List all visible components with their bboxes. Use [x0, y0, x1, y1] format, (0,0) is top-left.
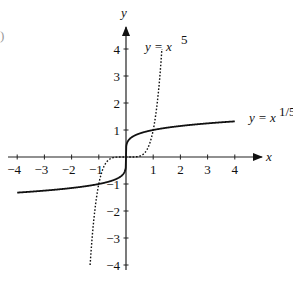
x-tick-label: 3 — [204, 162, 211, 177]
function-graph: x y −4−3−2−11234 4321−1−2−3−4 y = x 5 y … — [0, 0, 293, 286]
y-tick-label: −2 — [106, 204, 120, 219]
x-tick-label: 2 — [177, 162, 184, 177]
x-tick-label: −4 — [7, 162, 21, 177]
svg-text:5: 5 — [181, 32, 188, 47]
y-tick-label: 4 — [114, 42, 121, 57]
y-tick-label: −4 — [106, 258, 120, 273]
y-tick-label: −3 — [106, 231, 120, 246]
x-tick-label: −3 — [34, 162, 48, 177]
y-tick-label: 3 — [114, 69, 121, 84]
x-tick-label: 1 — [150, 162, 157, 177]
x-tick-label: −1 — [89, 162, 103, 177]
x-axis-label: x — [265, 149, 272, 164]
x-tick-label: −2 — [62, 162, 76, 177]
svg-text:y = x: y = x — [247, 110, 276, 125]
y-tick-label: 1 — [114, 123, 121, 138]
y-tick-label: 2 — [114, 96, 121, 111]
label-fifth-root: y = x 1/5 — [247, 104, 293, 125]
label-fifth-power: y = x 5 — [143, 32, 188, 54]
svg-text:1/5: 1/5 — [279, 104, 293, 119]
x-tick-label: 4 — [232, 162, 239, 177]
svg-text:y = x: y = x — [143, 39, 172, 54]
y-axis-label: y — [119, 5, 127, 20]
